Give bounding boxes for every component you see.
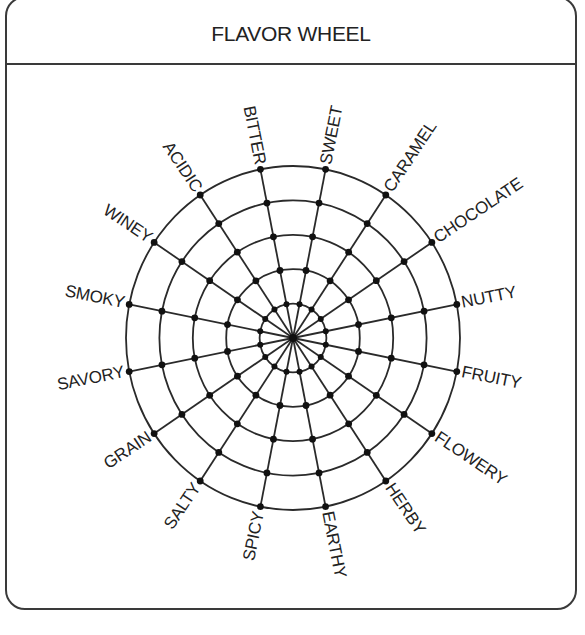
- intersection-dot: [159, 308, 166, 315]
- intersection-dot: [303, 267, 310, 274]
- intersection-dot: [159, 361, 166, 368]
- flavor-wheel-diagram: NUTTYCHOCOLATECARAMELSWEETBITTERACIDICWI…: [0, 0, 585, 635]
- intersection-dot: [401, 411, 408, 418]
- wheel-intersection-dots: [126, 166, 460, 510]
- intersection-dot: [297, 369, 303, 375]
- intersection-dot: [206, 392, 213, 399]
- intersection-dot: [327, 392, 334, 399]
- intersection-dot: [191, 314, 198, 321]
- intersection-dot: [151, 239, 158, 246]
- intersection-dot: [355, 348, 362, 355]
- intersection-dot: [316, 200, 323, 207]
- intersection-dot: [309, 233, 316, 240]
- intersection-dot: [277, 402, 284, 409]
- intersection-dot: [316, 470, 323, 477]
- intersection-dot: [364, 449, 371, 456]
- intersection-dot: [277, 267, 284, 274]
- intersection-dot: [303, 402, 310, 409]
- intersection-dot: [270, 233, 277, 240]
- intersection-dot: [224, 348, 231, 355]
- intersection-dot: [309, 364, 315, 370]
- flavor-label-flowery: FLOWERY: [431, 428, 510, 490]
- flavor-label-smoky: SMOKY: [63, 281, 126, 311]
- intersection-dot: [428, 239, 435, 246]
- intersection-dot: [453, 368, 460, 375]
- intersection-dot: [382, 478, 389, 485]
- flavor-label-winey: WINEY: [100, 201, 156, 247]
- intersection-dot: [345, 420, 352, 427]
- intersection-dot: [264, 470, 271, 477]
- intersection-dot: [345, 373, 352, 380]
- flavor-label-spicy: SPICY: [239, 510, 267, 563]
- flavor-label-savory: SAVORY: [55, 362, 125, 394]
- flavor-label-bitter: BITTER: [240, 104, 270, 166]
- intersection-dot: [373, 277, 380, 284]
- intersection-dot: [322, 503, 329, 510]
- intersection-dot: [252, 277, 259, 284]
- intersection-dot: [151, 430, 158, 437]
- flavor-label-fruity: FRUITY: [460, 362, 523, 392]
- intersection-dot: [453, 301, 460, 308]
- flavor-label-chocolate: CHOCOLATE: [430, 174, 526, 247]
- flavor-label-earthy: EARTHY: [318, 510, 350, 580]
- intersection-dot: [270, 436, 277, 443]
- intersection-dot: [234, 373, 241, 380]
- intersection-dot: [421, 308, 428, 315]
- intersection-dot: [197, 478, 204, 485]
- intersection-dot: [388, 355, 395, 362]
- intersection-dot: [252, 392, 259, 399]
- flavor-label-acidic: ACIDIC: [159, 138, 206, 195]
- intersection-dot: [355, 321, 362, 328]
- flavor-label-salty: SALTY: [160, 479, 204, 532]
- intersection-dot: [257, 166, 264, 173]
- intersection-dot: [257, 503, 264, 510]
- flavor-label-nutty: NUTTY: [460, 282, 518, 311]
- intersection-dot: [257, 342, 263, 348]
- intersection-dot: [126, 301, 133, 308]
- flavor-label-grain: GRAIN: [100, 428, 154, 473]
- intersection-dot: [323, 342, 329, 348]
- intersection-dot: [283, 301, 289, 307]
- intersection-dot: [234, 420, 241, 427]
- intersection-dot: [126, 368, 133, 375]
- flavor-label-caramel: CARAMEL: [380, 118, 441, 196]
- intersection-dot: [262, 354, 268, 360]
- intersection-dot: [364, 220, 371, 227]
- flavor-label-herby: HERBY: [382, 479, 430, 537]
- intersection-dot: [215, 449, 222, 456]
- intersection-dot: [382, 192, 389, 199]
- intersection-dot: [322, 166, 329, 173]
- intersection-dot: [323, 328, 329, 334]
- intersection-dot: [224, 321, 231, 328]
- intersection-dot: [215, 220, 222, 227]
- intersection-dot: [345, 249, 352, 256]
- intersection-dot: [179, 411, 186, 418]
- intersection-dot: [234, 296, 241, 303]
- intersection-dot: [264, 200, 271, 207]
- intersection-dot: [257, 328, 263, 334]
- intersection-dot: [191, 355, 198, 362]
- intersection-dot: [327, 277, 334, 284]
- intersection-dot: [428, 430, 435, 437]
- intersection-dot: [271, 364, 277, 370]
- intersection-dot: [318, 354, 324, 360]
- intersection-dot: [234, 249, 241, 256]
- intersection-dot: [197, 192, 204, 199]
- intersection-dot: [262, 316, 268, 322]
- intersection-dot: [309, 436, 316, 443]
- intersection-dot: [421, 361, 428, 368]
- wheel-center-hub: [289, 334, 297, 342]
- intersection-dot: [179, 258, 186, 265]
- flavor-label-sweet: SWEET: [316, 104, 346, 166]
- intersection-dot: [401, 258, 408, 265]
- intersection-dot: [283, 369, 289, 375]
- intersection-dot: [373, 392, 380, 399]
- intersection-dot: [345, 296, 352, 303]
- intersection-dot: [297, 301, 303, 307]
- intersection-dot: [309, 306, 315, 312]
- intersection-dot: [318, 316, 324, 322]
- intersection-dot: [271, 306, 277, 312]
- intersection-dot: [206, 277, 213, 284]
- intersection-dot: [388, 314, 395, 321]
